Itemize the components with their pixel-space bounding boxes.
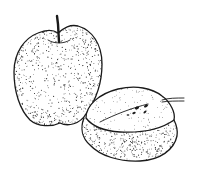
apple-illustration [0,0,198,176]
stem-half-lower [162,101,184,102]
whole-apple-stem [57,16,59,42]
